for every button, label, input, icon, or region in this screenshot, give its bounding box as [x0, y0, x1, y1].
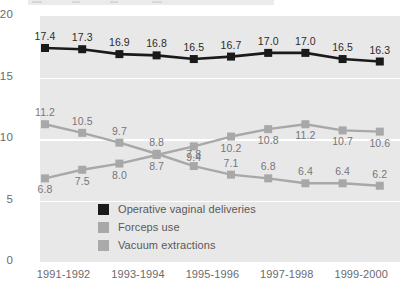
legend-swatch-icon: [98, 222, 109, 233]
data-point-label: 6.4: [335, 165, 350, 177]
x-axis-tick-label: 1997-1998: [260, 268, 314, 280]
data-point-label: 16.5: [183, 41, 204, 53]
data-point-label: 6.8: [38, 183, 53, 195]
data-point-label: 16.5: [332, 41, 353, 53]
data-point-label: 6.2: [372, 168, 387, 180]
legend-item: Operative vaginal deliveries: [98, 201, 256, 217]
truncated-caption-ink: [32, 1, 232, 3]
truncated-caption-sliver: [28, 0, 274, 5]
data-point-label: 7.1: [224, 157, 239, 169]
data-point-label: 8.0: [112, 169, 127, 181]
data-point-label: 7.5: [75, 175, 90, 187]
legend-item: Vacuum extractions: [98, 237, 256, 253]
data-point-label: 10.6: [369, 137, 390, 149]
x-axis-tick-label: 1993-1994: [111, 268, 165, 280]
chart-legend: Operative vaginal deliveriesForceps useV…: [98, 201, 256, 255]
legend-label: Vacuum extractions: [118, 239, 216, 251]
legend-label: Forceps use: [118, 221, 180, 233]
y-axis-tick-label: 5: [0, 193, 13, 205]
legend-swatch-icon: [98, 240, 109, 251]
data-point-label: 17.4: [35, 30, 56, 42]
data-point-label: 10.2: [221, 142, 242, 154]
y-axis-tick-label: 20: [0, 8, 13, 20]
data-point-label: 10.8: [258, 134, 279, 146]
legend-swatch-icon: [98, 204, 109, 215]
legend-label: Operative vaginal deliveries: [118, 203, 256, 215]
data-point-label: 16.7: [221, 39, 242, 51]
y-axis-tick-label: 10: [0, 131, 13, 143]
data-point-label: 17.3: [72, 31, 93, 43]
data-point-label: 9.4: [186, 151, 201, 163]
data-point-label: 10.7: [332, 135, 353, 147]
y-axis-tick-label: 0: [0, 254, 13, 266]
data-point-label: 8.8: [149, 136, 164, 148]
data-point-label: 6.4: [298, 165, 313, 177]
data-point-label: 16.3: [369, 44, 390, 56]
data-point-label: 8.7: [149, 160, 164, 172]
data-point-label: 11.2: [295, 129, 315, 141]
data-point-label: 17.0: [295, 35, 316, 47]
x-axis-tick-label: 1995-1996: [186, 268, 240, 280]
y-axis-tick-label: 15: [0, 70, 13, 82]
data-point-label: 17.0: [258, 35, 279, 47]
legend-item: Forceps use: [98, 219, 256, 235]
x-axis-tick-label: 1991-1992: [37, 268, 91, 280]
data-point-label: 16.9: [109, 36, 130, 48]
chart-figure: 05101520 1991-19921993-19941995-19961997…: [0, 0, 417, 292]
data-point-label: 11.2: [35, 106, 55, 118]
data-point-label: 6.8: [261, 160, 276, 172]
x-axis-tick-label: 1999-2000: [334, 268, 388, 280]
data-point-label: 16.8: [146, 37, 167, 49]
gridline: [40, 78, 400, 80]
data-point-label: 9.7: [112, 125, 127, 137]
data-point-label: 10.5: [72, 115, 93, 127]
